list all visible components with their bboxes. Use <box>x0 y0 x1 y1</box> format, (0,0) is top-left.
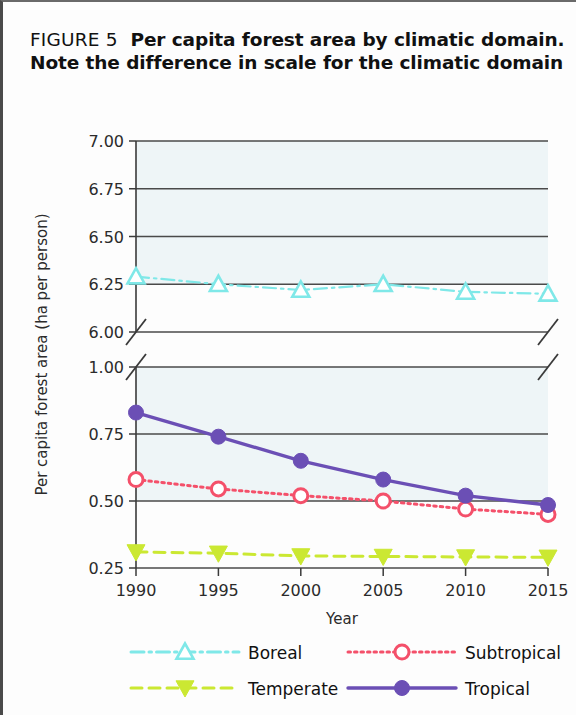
y-tick-label-lower-0.50: 0.50 <box>88 492 124 511</box>
data-point-subtropical-2010 <box>459 502 473 516</box>
y-tick-label-lower-1.00: 1.00 <box>88 358 124 377</box>
legend-marker-tropical <box>395 681 410 696</box>
legend-item-boreal[interactable]: Boreal <box>131 643 302 663</box>
data-point-boreal-2015 <box>540 285 557 300</box>
series-line-temperate <box>136 552 548 557</box>
shaded-band-upper <box>136 141 548 284</box>
legend-item-temperate[interactable]: Temperate <box>131 679 338 699</box>
x-tick-label-1995: 1995 <box>198 581 239 600</box>
chart-canvas: 6.006.256.506.757.000.250.500.751.001990… <box>3 2 576 715</box>
data-point-tropical-2010 <box>458 488 473 503</box>
figure-frame: FIGURE 5 Per capita forest area by clima… <box>0 0 576 715</box>
legend-label-boreal: Boreal <box>248 643 302 663</box>
y-tick-label-upper-7.00: 7.00 <box>88 132 124 151</box>
legend-label-subtropical: Subtropical <box>465 643 561 663</box>
x-tick-label-1990: 1990 <box>116 581 157 600</box>
legend-item-subtropical[interactable]: Subtropical <box>348 643 561 663</box>
series-temperate <box>127 545 557 567</box>
y-axis-title: Per capita forest area (ha per person) <box>33 213 51 495</box>
data-point-subtropical-2005 <box>376 494 390 508</box>
x-tick-label-2010: 2010 <box>445 581 486 600</box>
chart-legend: BorealSubtropicalTemperateTropical <box>131 643 561 699</box>
x-tick-label-2015: 2015 <box>528 581 569 600</box>
y-tick-label-upper-6.25: 6.25 <box>88 275 124 294</box>
data-point-tropical-2005 <box>376 472 391 487</box>
data-point-tropical-1995 <box>211 429 226 444</box>
x-tick-label-2000: 2000 <box>280 581 321 600</box>
legend-item-tropical[interactable]: Tropical <box>348 679 530 699</box>
y-tick-label-upper-6.00: 6.00 <box>88 323 124 342</box>
x-axis-title: Year <box>325 610 359 628</box>
y-tick-label-upper-6.50: 6.50 <box>88 228 124 247</box>
data-point-tropical-2000 <box>293 453 308 468</box>
data-point-tropical-2015 <box>541 498 556 513</box>
data-point-subtropical-1990 <box>129 473 143 487</box>
data-point-subtropical-2000 <box>294 489 308 503</box>
legend-marker-subtropical <box>395 645 409 659</box>
data-point-subtropical-1995 <box>211 482 225 496</box>
y-tick-label-upper-6.75: 6.75 <box>88 180 124 199</box>
data-point-tropical-1990 <box>129 405 144 420</box>
y-tick-label-lower-0.75: 0.75 <box>88 425 124 444</box>
legend-label-temperate: Temperate <box>247 679 338 699</box>
y-tick-label-lower-0.25: 0.25 <box>88 559 124 578</box>
x-tick-label-2005: 2005 <box>363 581 404 600</box>
shaded-bands <box>136 141 548 501</box>
legend-label-tropical: Tropical <box>464 679 530 699</box>
